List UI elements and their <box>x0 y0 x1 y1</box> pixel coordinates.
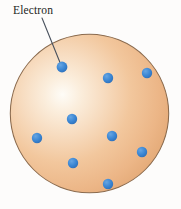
atom-diagram-canvas <box>0 0 181 209</box>
electron-left <box>32 133 42 143</box>
electron-lower-left <box>68 158 78 168</box>
electron-label: Electron <box>13 5 53 17</box>
electron-lower-right <box>137 147 147 157</box>
sphere-group <box>10 34 168 192</box>
electron-center <box>67 114 77 124</box>
positive-charge-sphere <box>10 34 168 192</box>
electron-mid-right <box>107 131 117 141</box>
electron-upper-mid <box>103 73 113 83</box>
electron-bottom <box>103 179 113 189</box>
electron-labeled <box>57 62 68 73</box>
atom-diagram-figure: Electron <box>0 0 181 209</box>
electron-upper-right <box>142 68 152 78</box>
